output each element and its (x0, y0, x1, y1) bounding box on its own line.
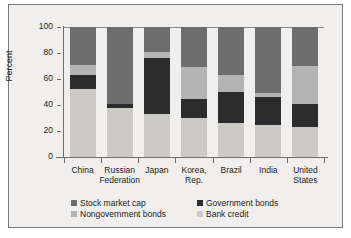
legend-swatch-nongovernment-bonds (71, 211, 77, 217)
legend-label-nongovernment-bonds: Nongovernment bonds (80, 209, 166, 219)
bar-group-russian-federation[interactable] (107, 27, 133, 157)
legend-row-1: Stock market cap Government bonds (71, 198, 301, 209)
bar-segment-stock-market-cap (70, 27, 96, 65)
bar-segment-government-bonds (292, 104, 318, 127)
y-tick-mark-60 (57, 79, 61, 80)
bar-segment-stock-market-cap (218, 27, 244, 75)
y-tick-label-60: 60 (31, 74, 53, 83)
legend-label-bank-credit: Bank credit (206, 209, 249, 219)
bar-group-japan[interactable] (144, 27, 170, 157)
bar-segment-government-bonds (255, 97, 281, 124)
x-tick-separator (138, 157, 139, 163)
bar-group-brazil[interactable] (218, 27, 244, 157)
bar-group-india[interactable] (255, 27, 281, 157)
chart-legend: Stock market cap Government bonds Nongov… (71, 198, 301, 220)
bar-segment-bank-credit (255, 125, 281, 158)
bar-segment-nongovernment-bonds (292, 66, 318, 104)
legend-item-nongovernment-bonds[interactable]: Nongovernment bonds (71, 209, 166, 219)
y-tick-mark-40 (57, 105, 61, 106)
chart-page: Percent 020406080100 ChinaRussianFederat… (0, 0, 351, 238)
bar-segment-stock-market-cap (181, 27, 207, 67)
y-tick-mark-100 (57, 27, 61, 28)
bar-segment-bank-credit (218, 123, 244, 157)
x-tick-separator (175, 157, 176, 163)
legend-row-2: Nongovernment bonds Bank credit (71, 209, 301, 220)
x-tick-separator (213, 157, 214, 163)
y-tick-mark-80 (57, 53, 61, 54)
legend-swatch-government-bonds (197, 200, 203, 206)
bar-segment-bank-credit (144, 114, 170, 157)
x-tick-separator (64, 157, 65, 163)
bar-segment-stock-market-cap (144, 27, 170, 52)
bar-segment-government-bonds (107, 104, 133, 108)
bar-segment-nongovernment-bonds (255, 93, 281, 97)
legend-item-bank-credit[interactable]: Bank credit (197, 209, 249, 219)
x-axis-label-line: Rep. (170, 175, 218, 185)
legend-swatch-stock-market-cap (71, 200, 77, 206)
bar-segment-bank-credit (181, 118, 207, 157)
bar-segment-bank-credit (292, 127, 318, 157)
bar-segment-government-bonds (144, 58, 170, 114)
bar-segment-government-bonds (181, 99, 207, 119)
plot-area (64, 27, 324, 157)
bar-group-united-states[interactable] (292, 27, 318, 157)
legend-label-stock-market-cap: Stock market cap (80, 198, 146, 208)
bar-segment-stock-market-cap (292, 27, 318, 66)
y-tick-mark-0 (57, 157, 61, 158)
bar-group-korea-rep[interactable] (181, 27, 207, 157)
bar-segment-nongovernment-bonds (144, 52, 170, 59)
x-axis-label-line: United (281, 165, 329, 175)
y-tick-label-0: 0 (31, 152, 53, 161)
x-axis-label-line: States (281, 175, 329, 185)
bar-segment-stock-market-cap (107, 27, 133, 104)
bar-segment-government-bonds (70, 75, 96, 89)
legend-item-government-bonds[interactable]: Government bonds (197, 198, 278, 208)
bar-segment-bank-credit (70, 89, 96, 157)
bar-segment-nongovernment-bonds (218, 75, 244, 92)
y-tick-label-20: 20 (31, 126, 53, 135)
bar-group-china[interactable] (70, 27, 96, 157)
x-tick-separator (101, 157, 102, 163)
legend-swatch-bank-credit (197, 211, 203, 217)
chart-panel: Percent 020406080100 ChinaRussianFederat… (8, 4, 343, 228)
bar-segment-government-bonds (218, 92, 244, 123)
bar-segment-nongovernment-bonds (70, 65, 96, 75)
y-tick-label-40: 40 (31, 100, 53, 109)
x-tick-separator (250, 157, 251, 163)
x-axis-label-line: Federation (96, 175, 144, 185)
y-tick-label-80: 80 (31, 48, 53, 57)
bar-segment-stock-market-cap (255, 27, 281, 93)
y-axis-title: Percent (4, 50, 14, 81)
y-tick-mark-20 (57, 131, 61, 132)
legend-item-stock-market-cap[interactable]: Stock market cap (71, 198, 146, 208)
bar-segment-nongovernment-bonds (181, 67, 207, 98)
x-tick-separator (287, 157, 288, 163)
x-axis-label-united-states: UnitedStates (281, 165, 329, 185)
bar-segment-bank-credit (107, 108, 133, 157)
y-tick-label-100: 100 (31, 22, 53, 31)
x-tick-separator (324, 157, 325, 163)
legend-label-government-bonds: Government bonds (206, 198, 278, 208)
